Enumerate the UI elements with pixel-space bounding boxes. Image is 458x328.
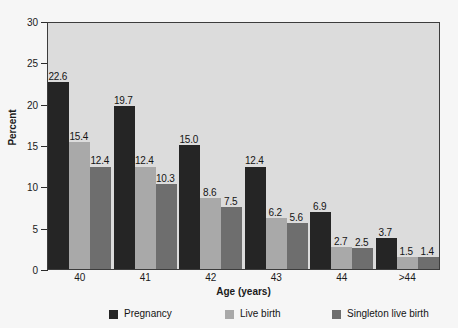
bar-value-label: 10.3 <box>156 173 175 184</box>
y-axis-tick-label: 20 <box>14 99 38 110</box>
legend-item: Live birth <box>225 307 281 321</box>
x-axis-tick-label: 44 <box>336 272 347 283</box>
bar-value-label: 12.4 <box>135 155 154 166</box>
bar <box>352 248 373 269</box>
bar-chart-figure: Percent 051015202530 22.615.412.419.712.… <box>0 0 458 328</box>
bar <box>90 167 111 270</box>
x-axis-tick-label: >44 <box>399 272 416 283</box>
bar-value-label: 5.6 <box>290 212 303 223</box>
y-axis-tick-label: 5 <box>14 223 38 234</box>
bar <box>179 145 200 269</box>
bar <box>48 82 69 269</box>
bar-value-label: 6.2 <box>269 207 282 218</box>
bar-value-label: 2.7 <box>334 236 347 247</box>
legend-item: Pregnancy <box>109 307 172 321</box>
y-axis-tick-label: 10 <box>14 182 38 193</box>
bar <box>418 257 439 269</box>
bar-value-label: 3.7 <box>379 227 392 238</box>
x-axis-tick-label: 41 <box>140 272 151 283</box>
x-axis-tick-label: 43 <box>271 272 282 283</box>
bar <box>310 212 331 269</box>
bar-value-label: 15.0 <box>179 134 198 145</box>
bar <box>156 184 177 269</box>
y-axis-tick-label: 25 <box>14 58 38 69</box>
bar-value-label: 1.5 <box>400 246 413 257</box>
bar-value-label: 6.9 <box>313 201 326 212</box>
y-axis-tick-label: 0 <box>14 265 38 276</box>
y-axis-tick-label: 30 <box>14 17 38 28</box>
bar-value-label: 8.6 <box>203 187 216 198</box>
bar <box>114 106 135 269</box>
x-axis-tick-label: 42 <box>205 272 216 283</box>
bar-value-label: 19.7 <box>114 95 133 106</box>
bar-value-label: 2.5 <box>355 237 368 248</box>
y-axis-tick-label: 15 <box>14 141 38 152</box>
legend-swatch-icon <box>225 310 234 319</box>
legend-swatch-icon <box>332 310 341 319</box>
bar <box>200 198 221 269</box>
bar <box>135 167 156 270</box>
bar <box>69 142 90 269</box>
legend-label: Singleton live birth <box>347 309 429 319</box>
bar <box>397 257 418 269</box>
bar <box>376 238 397 269</box>
legend-label: Live birth <box>240 309 281 319</box>
bar-value-label: 1.4 <box>421 246 434 257</box>
bar-value-label: 15.4 <box>69 131 88 142</box>
chart-legend: PregnancyLive birthSingleton live birth <box>47 307 440 321</box>
legend-label: Pregnancy <box>124 309 172 319</box>
legend-item: Singleton live birth <box>332 307 429 321</box>
y-axis-tick <box>41 270 48 271</box>
bar-value-label: 22.6 <box>48 71 67 82</box>
x-axis-tick-label: 40 <box>74 272 85 283</box>
bar-value-label: 12.4 <box>245 155 264 166</box>
bar-value-label: 12.4 <box>90 155 109 166</box>
bar <box>245 167 266 270</box>
bar <box>331 247 352 269</box>
bar <box>266 218 287 269</box>
bar <box>221 207 242 269</box>
bar-value-label: 7.5 <box>224 196 237 207</box>
legend-swatch-icon <box>109 310 118 319</box>
x-axis-title: Age (years) <box>47 286 440 297</box>
bar <box>287 223 308 269</box>
